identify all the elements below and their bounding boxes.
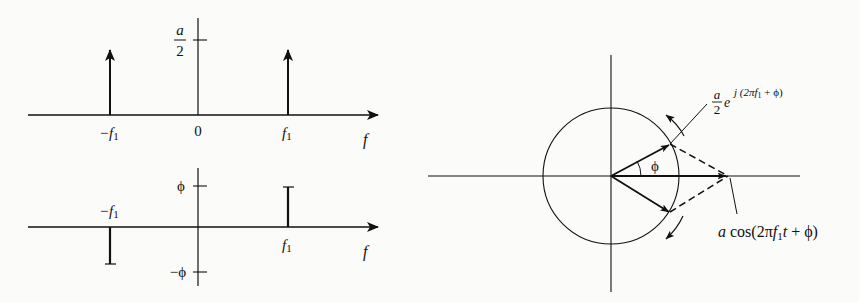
svg-text:a: a [714, 87, 721, 102]
phase-pos-f1-label: f1 [282, 237, 292, 254]
sum-label-leader [730, 178, 737, 214]
phasor-diagram: ϕ a 2 e j (2πf1 + ϕ) a cos(2πf1t + ϕ) [428, 55, 818, 292]
phase-tick-pos-label: ϕ [177, 178, 185, 194]
phasor-positive [611, 145, 669, 176]
svg-text:e: e [724, 95, 730, 110]
svg-text:2: 2 [714, 102, 721, 117]
angle-arc [637, 161, 641, 176]
rotation-arrow-ccw [666, 115, 684, 136]
amp-tick-numerator: a [176, 22, 184, 38]
amp-axis-f-label: f [363, 131, 370, 149]
amp-origin-label: 0 [194, 123, 202, 139]
upper-phasor-label: a 2 e j (2πf1 + ϕ) [712, 86, 783, 117]
amp-neg-f1-label: −f1 [99, 125, 119, 142]
phase-spectrum: ϕ −ϕ −f1 f1 f [28, 168, 378, 286]
sum-phasor-label: a cos(2πf1t + ϕ) [718, 223, 818, 242]
figure-canvas: a 2 0 −f1 f1 f ϕ −ϕ −f1 f1 f [0, 0, 859, 302]
phase-neg-f1-label: −f1 [99, 203, 119, 220]
amp-pos-f1-label: f1 [282, 125, 292, 142]
phase-line-pos-f1 [283, 187, 294, 227]
phase-line-neg-f1 [105, 227, 116, 264]
amplitude-spectrum: a 2 0 −f1 f1 f [28, 18, 378, 149]
amp-tick-denominator: 2 [176, 43, 184, 59]
angle-phi-label: ϕ [651, 158, 659, 174]
phasor-negative [611, 176, 669, 212]
rotation-arrow-cw [666, 216, 683, 239]
phase-tick-neg-label: −ϕ [170, 264, 186, 280]
phase-axis-f-label: f [363, 243, 370, 261]
svg-text:j (2πf1 + ϕ): j (2πf1 + ϕ) [732, 86, 783, 100]
